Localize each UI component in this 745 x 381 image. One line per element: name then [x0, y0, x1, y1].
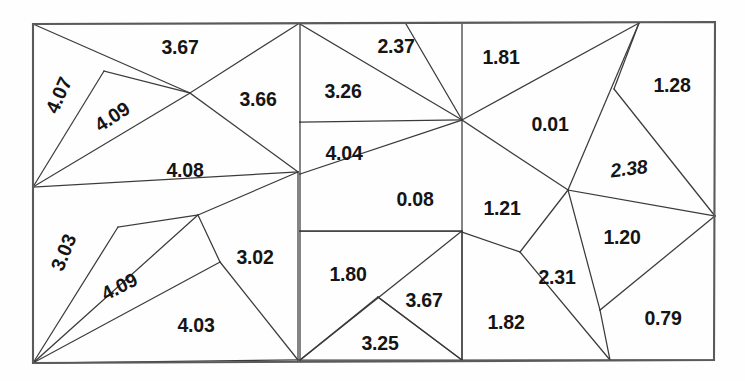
cell-value-4-03: 4.03 [177, 314, 215, 336]
cell-value-1-82: 1.82 [487, 311, 525, 333]
mesh-edge [190, 24, 298, 93]
cell-value-3-02: 3.02 [236, 246, 274, 268]
cell-value-0-08: 0.08 [396, 188, 434, 210]
domain-boundary [33, 22, 715, 363]
mesh-edge [300, 120, 462, 174]
mesh-canvas: 4.073.674.093.664.083.034.093.024.032.37… [0, 0, 745, 381]
cell-value-0-01: 0.01 [531, 113, 569, 135]
mesh-diagram-figure: 4.073.674.093.664.083.034.093.024.032.37… [0, 0, 745, 381]
cell-value-4-04: 4.04 [325, 142, 363, 164]
cell-value-2-31: 2.31 [538, 266, 576, 288]
cell-value-4-09-b: 4.09 [98, 268, 141, 305]
cell-value-3-67-b: 3.67 [405, 289, 442, 311]
cell-value-2-38: 2.38 [608, 155, 649, 182]
mesh-edge [198, 215, 220, 262]
mesh-edge-layer [33, 23, 715, 363]
mesh-edge [600, 310, 610, 360]
cell-value-1-81: 1.81 [482, 46, 520, 68]
cell-value-3-26: 3.26 [324, 80, 362, 102]
cell-value-2-37: 2.37 [377, 35, 414, 57]
cell-value-4-08: 4.08 [166, 159, 204, 181]
cell-value-1-80: 1.80 [329, 263, 367, 285]
cell-value-3-25: 3.25 [361, 332, 399, 354]
cell-value-0-79: 0.79 [644, 307, 682, 329]
domain-boundary-layer [33, 22, 715, 363]
cell-value-3-67-a: 3.67 [161, 36, 198, 58]
cell-value-1-20: 1.20 [603, 226, 641, 248]
mesh-edge [520, 190, 568, 252]
cell-value-4-07: 4.07 [41, 74, 76, 117]
cell-value-3-66: 3.66 [239, 88, 277, 110]
mesh-edge [198, 172, 298, 215]
mesh-edge [462, 23, 639, 120]
mesh-edge [300, 120, 462, 122]
cell-value-3-03: 3.03 [46, 231, 80, 274]
mesh-edge [568, 190, 715, 216]
cell-value-1-28: 1.28 [653, 74, 691, 96]
cell-value-1-21: 1.21 [483, 197, 521, 219]
mesh-edge [462, 232, 520, 252]
mesh-edge [614, 89, 715, 216]
mesh-edge [220, 262, 298, 360]
mesh-edge [568, 190, 600, 310]
